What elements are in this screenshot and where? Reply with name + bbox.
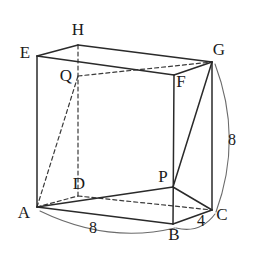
dimension-GC-label: 8 <box>228 131 236 148</box>
vertex-label-F: F <box>176 72 185 91</box>
vertex-labels-group: ABCDEFGHPQ <box>18 20 228 244</box>
dimension-arcs-group <box>40 64 229 233</box>
edge-A-Q <box>37 76 78 207</box>
vertex-label-P: P <box>158 167 167 186</box>
edge-F-B <box>173 75 174 224</box>
vertex-label-H: H <box>72 20 84 39</box>
edge-A-P <box>37 187 173 207</box>
vertex-label-E: E <box>20 43 30 62</box>
vertex-label-D: D <box>73 174 85 193</box>
edge-B-C <box>173 210 212 224</box>
vertex-label-B: B <box>168 225 179 244</box>
vertex-label-A: A <box>18 203 31 222</box>
vertex-label-C: C <box>216 205 227 224</box>
edge-A-B <box>37 207 173 224</box>
edge-H-G <box>78 45 212 62</box>
geometry-canvas: 848 ABCDEFGHPQ <box>0 0 253 261</box>
dimension-AB-label: 8 <box>89 219 97 236</box>
dimension-BC-label: 4 <box>197 212 205 229</box>
vertex-label-Q: Q <box>60 66 72 85</box>
geometry-figure: 848 ABCDEFGHPQ <box>0 0 253 261</box>
edge-E-F <box>37 56 174 75</box>
vertex-label-G: G <box>213 40 225 59</box>
edge-E-H <box>37 45 78 56</box>
